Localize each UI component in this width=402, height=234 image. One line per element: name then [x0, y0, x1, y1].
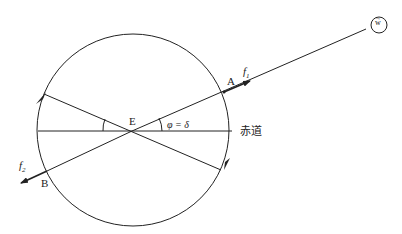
label-f1: f1	[243, 66, 250, 80]
diagonal-line	[44, 94, 221, 170]
label-B: B	[41, 178, 48, 189]
label-W: →w	[375, 19, 381, 27]
right-arrow-head	[224, 158, 230, 170]
line-E-to-B	[47, 131, 132, 171]
point-A	[223, 91, 226, 94]
diagram-canvas	[0, 0, 402, 234]
label-E: E	[129, 116, 136, 127]
earth-circle	[37, 34, 229, 226]
label-angle: φ = δ	[167, 120, 189, 130]
label-equator: 赤道	[240, 126, 262, 137]
angle-arc-right	[159, 118, 162, 131]
angle-arc-left	[103, 119, 105, 131]
label-A: A	[227, 76, 235, 87]
label-f2: f2	[19, 160, 26, 174]
